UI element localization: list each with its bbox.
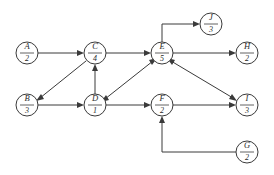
node-c-number: 4 xyxy=(93,54,97,63)
edge-f-to-i xyxy=(173,102,236,108)
node-f[interactable]: F 2 xyxy=(151,93,173,116)
edge-d-to-c xyxy=(92,64,98,94)
edge-e-to-i xyxy=(171,61,237,101)
edge-g-to-f xyxy=(159,116,236,152)
node-a[interactable]: A 2 xyxy=(16,41,38,64)
edge-d-to-e xyxy=(105,58,157,99)
node-e-letter: E xyxy=(158,41,165,51)
edge-c-to-b xyxy=(36,61,86,101)
node-i-number: 3 xyxy=(244,106,249,115)
node-d[interactable]: D 1 xyxy=(84,93,106,116)
node-b-letter: B xyxy=(24,93,29,103)
diagram-canvas: A 2 B 3 C 4 D 1 xyxy=(0,0,274,175)
edge-d-to-f xyxy=(106,102,151,108)
node-j[interactable]: J 3 xyxy=(200,12,222,35)
node-g-number: 2 xyxy=(245,153,249,162)
node-h-number: 2 xyxy=(245,54,249,63)
node-e-number: 5 xyxy=(160,54,164,63)
edge-e-to-h xyxy=(173,50,236,56)
node-f-number: 2 xyxy=(160,106,164,115)
graph-svg: A 2 B 3 C 4 D 1 xyxy=(0,0,274,175)
node-h-letter: H xyxy=(243,41,251,51)
node-c[interactable]: C 4 xyxy=(84,41,106,64)
node-i[interactable]: I 3 xyxy=(236,93,258,116)
node-e[interactable]: E 5 xyxy=(151,41,173,64)
node-d-letter: D xyxy=(91,93,99,103)
edge-e-to-j xyxy=(162,21,200,42)
edges-layer xyxy=(36,21,237,152)
edge-b-to-d xyxy=(38,102,84,108)
node-g-letter: G xyxy=(244,140,250,150)
node-j-number: 3 xyxy=(208,25,213,34)
edge-c-to-e xyxy=(106,50,151,56)
node-f-letter: F xyxy=(158,93,165,103)
node-d-number: 1 xyxy=(93,106,97,115)
node-a-letter: A xyxy=(23,41,30,51)
node-c-letter: C xyxy=(92,41,98,51)
node-g[interactable]: G 2 xyxy=(236,140,258,163)
node-b[interactable]: B 3 xyxy=(16,93,38,116)
node-a-number: 2 xyxy=(25,54,29,63)
edge-a-to-c xyxy=(38,50,84,56)
node-b-number: 3 xyxy=(24,106,29,115)
node-h[interactable]: H 2 xyxy=(236,41,258,64)
